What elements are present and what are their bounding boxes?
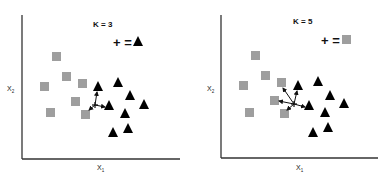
legend-square-icon — [342, 35, 351, 44]
square-icon — [40, 82, 49, 91]
triangle-icon — [125, 90, 135, 100]
triangle-icon — [113, 77, 123, 87]
square-icon — [261, 71, 270, 80]
triangle-icon — [104, 100, 114, 110]
panel-k3: K = 3 + = X2 X1 — [7, 15, 180, 173]
triangle-icon — [313, 76, 323, 86]
panel-title: K = 3 — [93, 20, 113, 29]
legend-text: + = — [321, 33, 340, 48]
legend-triangle-icon — [133, 36, 143, 46]
triangle-icon — [293, 80, 303, 90]
legend-text: + = — [113, 35, 132, 50]
triangle-icon — [323, 122, 333, 132]
square-points — [40, 52, 90, 119]
neighbor-arrows — [89, 92, 105, 110]
triangle-icon — [339, 98, 349, 108]
panel-title: K = 5 — [293, 17, 313, 26]
triangle-icon — [123, 123, 133, 133]
triangle-icon — [325, 90, 335, 100]
square-icon — [62, 72, 71, 81]
triangle-icon — [304, 100, 314, 110]
square-icon — [78, 79, 87, 88]
triangle-points — [93, 77, 149, 137]
x-axis-label: X1 — [296, 164, 304, 173]
square-icon — [52, 52, 61, 61]
neighbor-arrows — [279, 88, 305, 110]
square-icon — [251, 51, 260, 60]
square-icon — [280, 109, 289, 118]
y-axis-label: X2 — [7, 85, 15, 94]
square-icon — [277, 78, 286, 87]
square-icon — [270, 96, 279, 105]
triangle-icon — [93, 81, 103, 91]
triangle-icon — [139, 99, 149, 109]
square-icon — [46, 108, 55, 117]
panel-k5: K = 5 + = X2 X1 — [207, 15, 378, 173]
triangle-icon — [308, 127, 318, 137]
y-axis-label: X2 — [207, 85, 215, 94]
square-points — [239, 51, 289, 118]
square-icon — [239, 81, 248, 90]
square-icon — [81, 110, 90, 119]
knn-diagram: K = 3 + = X2 X1 — [0, 0, 389, 181]
triangle-icon — [108, 127, 118, 137]
square-icon — [245, 108, 254, 117]
triangle-icon — [320, 107, 330, 117]
square-icon — [71, 97, 80, 106]
x-axis-label: X1 — [97, 164, 105, 173]
triangle-icon — [120, 108, 130, 118]
